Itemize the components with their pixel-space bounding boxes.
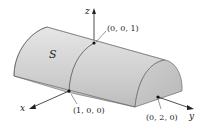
point-label-0-0-1: (0, 0, 1) — [107, 24, 139, 33]
point-0-2-0 — [156, 95, 159, 98]
z-axis — [92, 8, 96, 44]
surface-label: S — [49, 48, 57, 61]
leader-0-0-1 — [96, 31, 106, 42]
y-axis — [158, 97, 194, 110]
point-label-0-2-0: (0, 2, 0) — [146, 113, 178, 122]
leader-1-0-0 — [71, 94, 77, 104]
point-0-0-1 — [92, 41, 95, 44]
half-cylinder-diagram: S x y z (0, 0, 1) (1, 0, 0) (0, 2, 0) — [0, 0, 209, 132]
half-cylinder-surface — [14, 27, 182, 107]
point-label-1-0-0: (1, 0, 0) — [73, 106, 105, 115]
x-axis-label: x — [20, 103, 25, 113]
y-axis-label: y — [188, 111, 195, 121]
z-axis-label: z — [84, 6, 90, 16]
x-axis — [29, 91, 69, 109]
point-1-0-0 — [67, 89, 70, 92]
leader-0-2-0 — [158, 99, 161, 109]
